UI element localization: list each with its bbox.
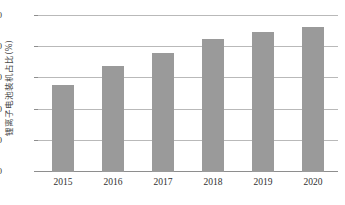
y-tick-label-100: 100 (0, 11, 2, 20)
y-tick-label-40: 40 (0, 105, 2, 114)
bar-2015 (52, 85, 74, 172)
bar-chart-figure: 锂离子电池装机占比(%) 020406080100 20152016201720… (0, 0, 345, 205)
bar-2019 (252, 32, 274, 172)
x-tick-label-2020: 2020 (291, 176, 335, 188)
x-tick-label-2017: 2017 (141, 176, 185, 188)
bar-2017 (152, 53, 174, 172)
x-tick-label-2016: 2016 (91, 176, 135, 188)
plot-area (38, 16, 338, 172)
x-tick-label-2019: 2019 (241, 176, 285, 188)
x-tick-label-2018: 2018 (191, 176, 235, 188)
y-axis-title: 锂离子电池装机占比(%) (2, 13, 16, 163)
x-axis-tick-labels: 201520162017201820192020 (38, 176, 338, 192)
y-tick-label-80: 80 (0, 42, 2, 51)
y-tick-label-0: 0 (0, 167, 2, 176)
y-tick-label-20: 20 (0, 136, 2, 145)
bar-2018 (202, 39, 224, 172)
y-tick-label-60: 60 (0, 73, 2, 82)
bar-2016 (102, 66, 124, 172)
bars-layer (38, 16, 338, 172)
bar-2020 (302, 27, 324, 172)
x-tick-label-2015: 2015 (41, 176, 85, 188)
